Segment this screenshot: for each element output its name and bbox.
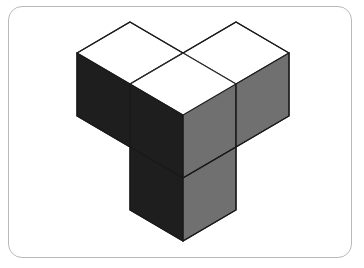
isometric-cube-figure	[0, 0, 364, 268]
cube-stack-svg	[0, 0, 364, 268]
